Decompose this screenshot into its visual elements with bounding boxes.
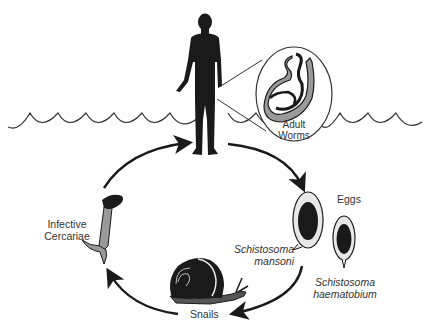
arrow-human-to-eggs <box>228 144 302 186</box>
haematobium-label-line1: Schistosoma <box>312 276 378 288</box>
arrow-eggs-to-snails <box>236 266 302 313</box>
haematobium-label-line2: haematobium <box>312 288 378 300</box>
cercariae-label-line2: Cercariae <box>42 230 92 242</box>
schistosoma-mansoni-label: Schistosoma mansoni <box>230 243 294 267</box>
cercariae-label: Infective Cercariae <box>42 218 92 242</box>
mansoni-label-line1: Schistosoma <box>230 243 294 255</box>
human-host-icon <box>176 14 222 156</box>
eggs-label: Eggs <box>337 193 361 205</box>
cercariae-label-line1: Infective <box>42 218 92 230</box>
schistosoma-haematobium-label: Schistosoma haematobium <box>312 276 378 300</box>
egg-schistosoma-haematobium-icon <box>333 216 355 268</box>
life-cycle-diagram: Adult Worms Infective Cercariae Eggs <box>0 0 430 323</box>
mansoni-label-line2: mansoni <box>230 255 294 267</box>
snails-label: Snails <box>190 308 219 320</box>
water-surface-waves <box>8 113 422 128</box>
arrow-snails-to-cercariae <box>110 274 178 314</box>
diagram-canvas: Adult Worms <box>0 0 430 323</box>
adult-worms-label-line2: Worms <box>278 130 309 141</box>
egg-schistosoma-mansoni-icon <box>293 192 323 250</box>
arrow-cercariae-to-human <box>104 143 186 188</box>
adult-worms-label-line1: Adult <box>283 119 306 130</box>
